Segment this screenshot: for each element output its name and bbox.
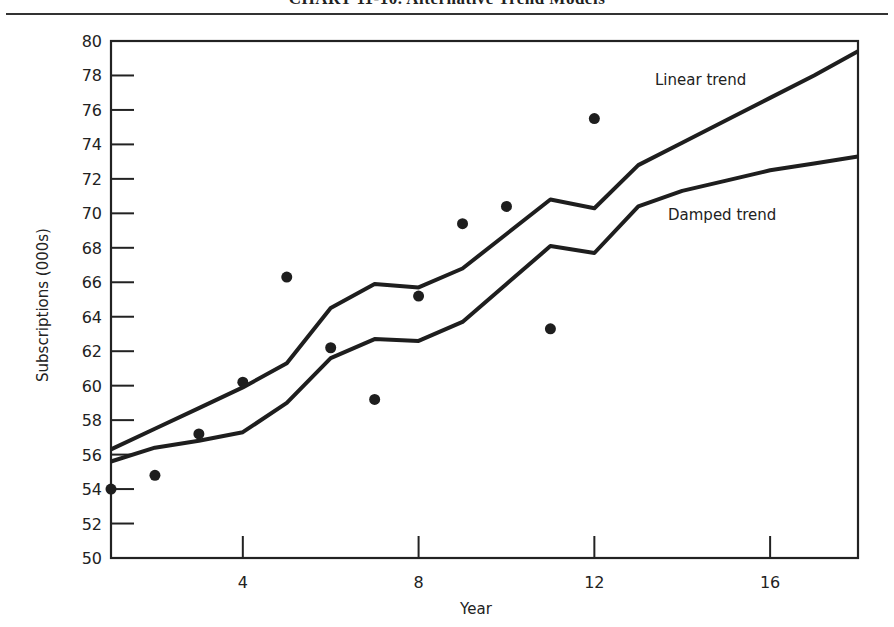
data-point — [149, 470, 160, 481]
x-tick-label: 8 — [413, 573, 423, 592]
observation-points — [106, 113, 600, 495]
data-point — [193, 428, 204, 439]
data-point — [106, 484, 117, 495]
y-tick-label: 60 — [82, 377, 102, 396]
data-point — [545, 323, 556, 334]
y-tick-label: 68 — [82, 239, 102, 258]
data-point — [457, 218, 468, 229]
x-axis-title: Year — [459, 600, 493, 618]
data-point — [281, 272, 292, 283]
y-tick-label: 58 — [82, 411, 102, 430]
data-point — [501, 201, 512, 212]
data-point — [325, 342, 336, 353]
trend-lines — [111, 51, 858, 461]
y-tick-label: 64 — [82, 308, 102, 327]
y-tick-label: 52 — [82, 515, 102, 534]
linear-trend-label: Linear trend — [655, 71, 746, 89]
plot-frame — [111, 41, 858, 558]
linear-trend-line — [111, 51, 858, 449]
data-point — [589, 113, 600, 124]
data-point — [369, 394, 380, 405]
plot-border — [111, 41, 858, 558]
x-tick-label: 12 — [584, 573, 604, 592]
data-point — [413, 291, 424, 302]
y-tick-label: 72 — [82, 170, 102, 189]
data-point — [237, 377, 248, 388]
chart-plot: 50525456586062646668707274767880 481216 … — [0, 0, 894, 627]
y-tick-label: 76 — [82, 101, 102, 120]
y-tick-label: 56 — [82, 446, 102, 465]
y-axis-title: Subscriptions (000s) — [34, 228, 52, 382]
x-axis: 481216 — [238, 536, 781, 592]
damped-trend-line — [111, 157, 858, 462]
x-tick-label: 4 — [238, 573, 248, 592]
y-tick-label: 70 — [82, 204, 102, 223]
y-tick-label: 62 — [82, 342, 102, 361]
y-tick-label: 66 — [82, 273, 102, 292]
y-tick-label: 50 — [82, 549, 102, 568]
y-tick-label: 74 — [82, 135, 102, 154]
y-tick-label: 54 — [82, 480, 102, 499]
x-tick-label: 16 — [760, 573, 780, 592]
y-tick-label: 78 — [82, 66, 102, 85]
y-tick-label: 80 — [82, 32, 102, 51]
damped-trend-label: Damped trend — [668, 206, 776, 224]
